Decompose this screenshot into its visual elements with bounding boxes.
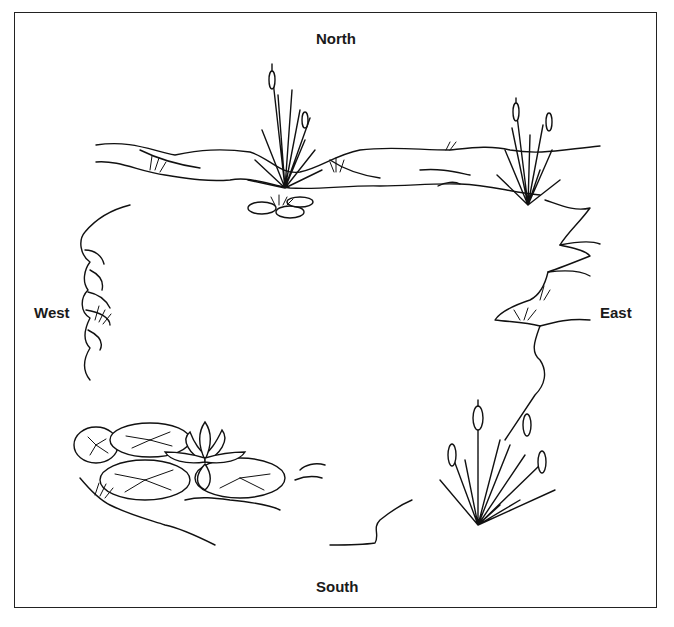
water-lily [74, 422, 285, 500]
cattail-cluster-southeast [440, 400, 555, 525]
west-bank [81, 205, 130, 380]
pond-illustration [0, 0, 674, 627]
small-lily-pads [248, 195, 313, 218]
east-bank [495, 200, 600, 440]
west-label: West [34, 304, 70, 321]
south-label: South [316, 578, 359, 595]
north-label: North [316, 30, 356, 47]
east-label: East [600, 304, 632, 321]
